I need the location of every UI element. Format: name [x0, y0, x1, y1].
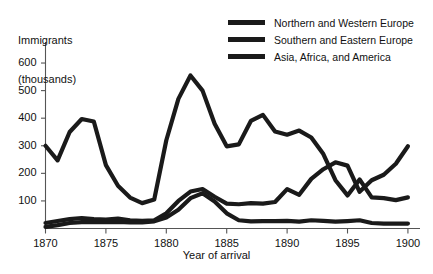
legend-item-label: Southern and Eastern Europe [274, 34, 413, 46]
x-axis-tick-label: 1870 [24, 237, 68, 249]
y-axis-tick-label: 600 [5, 56, 37, 68]
x-axis-tick-label: 1885 [205, 237, 249, 249]
legend-item-label: Asia, Africa, and America [274, 51, 391, 63]
legend-item-label: Northern and Western Europe [274, 17, 414, 29]
immigration-line-chart: Immigrants (thousands) 10020030040050060… [0, 0, 433, 274]
x-axis-tick-label: 1880 [144, 237, 188, 249]
legend-item: Asia, Africa, and America [228, 48, 428, 65]
y-axis-title-line1: Immigrants [18, 34, 76, 47]
x-axis-tick-label: 1900 [386, 237, 430, 249]
chart-legend: Northern and Western EuropeSouthern and … [228, 14, 428, 65]
series-line [46, 193, 408, 227]
x-axis-title: Year of arrival [0, 249, 433, 262]
x-axis-tick-label: 1895 [326, 237, 370, 249]
y-axis-tick-label: 200 [5, 166, 37, 178]
legend-item: Southern and Eastern Europe [228, 31, 428, 48]
x-axis-tick-label: 1875 [84, 237, 128, 249]
y-axis-tick-label: 100 [5, 194, 37, 206]
series-line [46, 75, 408, 203]
y-axis-tick-label: 400 [5, 111, 37, 123]
legend-swatch-icon [228, 20, 265, 25]
legend-item: Northern and Western Europe [228, 14, 428, 31]
legend-swatch-icon [228, 37, 265, 42]
legend-swatch-icon [228, 54, 265, 59]
data-series-group [46, 75, 408, 226]
y-axis-tick-label: 500 [5, 84, 37, 96]
y-axis-tick-label: 300 [5, 139, 37, 151]
x-axis-tick-label: 1890 [265, 237, 309, 249]
